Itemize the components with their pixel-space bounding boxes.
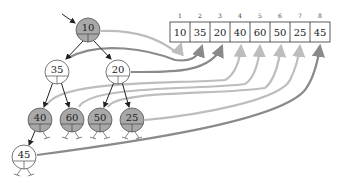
tree-node-60: 60: [60, 108, 84, 139]
array-cell: 60: [254, 27, 267, 38]
tree-node-20: 20: [106, 60, 130, 84]
array-cell: 25: [294, 27, 307, 38]
heap-array: 1 2 3 4 5 6 7 8 10 35 20 40 60 50 25 45: [170, 12, 330, 42]
array-cell: 45: [314, 27, 327, 38]
heap-diagram: 10 35 20 40 60: [0, 0, 346, 183]
array-cell: 40: [234, 27, 247, 38]
array-index: 7: [298, 12, 302, 19]
node-value: 35: [51, 64, 64, 75]
tree-node-45: 45: [12, 145, 36, 176]
array-cell: 20: [214, 27, 227, 38]
map-arrow-5: [79, 46, 260, 107]
node-value: 10: [82, 22, 95, 33]
node-value: 60: [66, 112, 79, 123]
tree-node-10: 10: [76, 18, 100, 42]
node-value: 50: [94, 112, 107, 123]
array-index: 5: [258, 12, 262, 19]
array-index: 3: [218, 12, 222, 19]
array-index: 6: [278, 12, 282, 19]
tree-node-35: 35: [45, 60, 69, 84]
array-index: 1: [178, 12, 182, 19]
array-cell: 50: [274, 27, 287, 38]
map-arrow-2: [68, 46, 202, 60]
mapping-arrows: [37, 31, 320, 155]
array-index: 8: [318, 12, 322, 19]
array-cell: 35: [194, 27, 207, 38]
array-index: 2: [198, 12, 202, 19]
map-arrow-6: [108, 46, 281, 107]
node-value: 40: [34, 112, 47, 123]
tree-node-25: 25: [120, 108, 144, 139]
node-value: 45: [18, 149, 31, 160]
array-index: 4: [238, 12, 242, 19]
root-pointer-arrow: [62, 14, 75, 23]
tree-node-50: 50: [88, 108, 112, 139]
tree-nodes: 10 35 20 40 60: [12, 18, 144, 176]
array-cell: 10: [174, 27, 187, 38]
tree-node-40: 40: [28, 108, 52, 132]
null-child-marker: [43, 132, 50, 139]
node-value: 20: [112, 64, 125, 75]
node-value: 25: [126, 112, 139, 123]
